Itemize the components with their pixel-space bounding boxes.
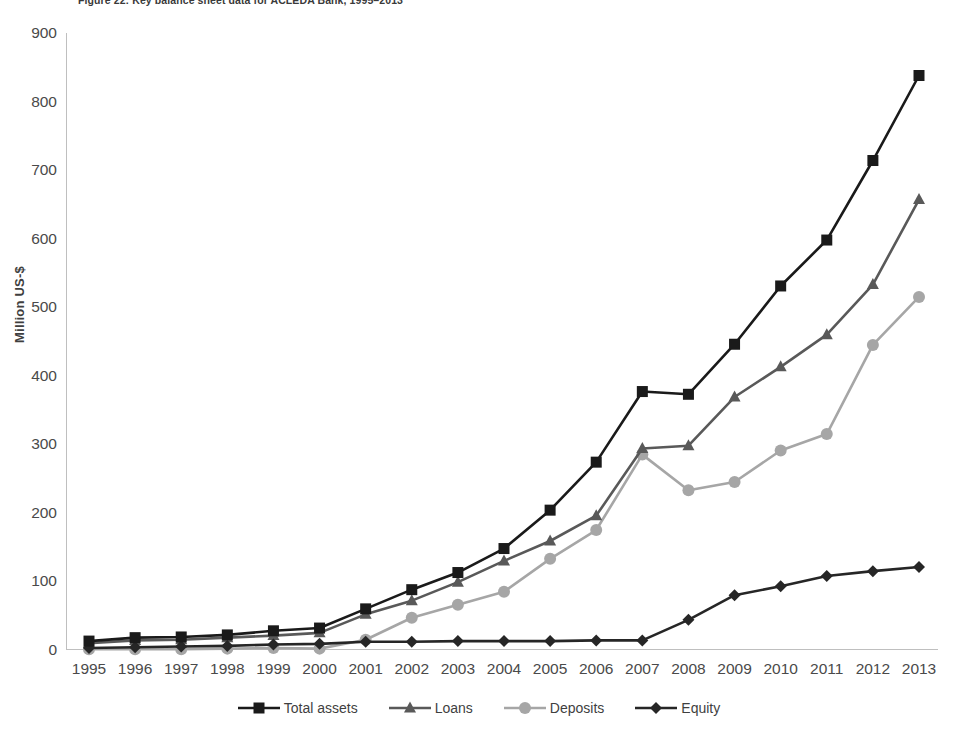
line-circle-marker [406,612,418,624]
line-square-marker [452,567,463,578]
line-circle-marker [821,428,833,440]
legend-item-label: Equity [681,700,720,716]
legend-item-label: Loans [435,700,473,716]
line-triangle-marker [775,360,787,371]
x-tick-label: 2007 [625,660,659,678]
y-tick-label: 300 [31,435,57,453]
line-circle-marker [913,291,925,303]
line-square-marker [268,625,279,636]
line-diamond-marker [636,634,648,646]
x-tick-label: 2005 [533,660,567,678]
series-deposits [83,291,925,655]
legend-item[interactable]: Deposits [503,700,604,716]
line-circle-marker [544,553,556,565]
line-triangle-marker [913,193,925,204]
line-diamond-marker [650,702,662,714]
line-square-marker [130,632,141,643]
line-square-marker [406,584,417,595]
legend-item-label: Deposits [550,700,604,716]
legend-item-label: Total assets [284,700,358,716]
line-circle-marker [867,339,879,351]
chart-series-canvas [66,33,938,650]
x-tick-label: 2008 [671,660,705,678]
line-circle-marker [519,702,531,714]
line-triangle-marker [729,391,741,402]
line-circle-marker [452,599,464,611]
x-tick-label: 1997 [164,660,198,678]
x-tick-label: 1995 [72,660,106,678]
legend-item[interactable]: Total assets [237,700,358,716]
line-diamond-marker [913,561,925,573]
line-circle-marker [729,476,741,488]
line-square-marker [591,457,602,468]
line-square-marker [360,603,371,614]
y-tick-label: 900 [31,24,57,42]
series-equity [83,561,925,654]
y-tick-label: 200 [31,504,57,522]
circle-marker [503,700,547,716]
line-square-marker [314,623,325,634]
line-diamond-marker [775,580,787,592]
chart-legend: Total assetsLoansDepositsEquity [0,700,957,716]
y-tick-label: 700 [31,161,57,179]
x-tick-label: 2003 [441,660,475,678]
x-tick-label: 2013 [902,660,936,678]
line-circle-marker [498,586,510,598]
x-tick-label: 2001 [348,660,382,678]
y-tick-label: 600 [31,230,57,248]
figure-caption: Figure 22: Key balance sheet data for AC… [78,0,678,8]
figure-root: Figure 22: Key balance sheet data for AC… [0,0,957,729]
series-loans [83,193,925,648]
x-tick-label: 2011 [810,660,843,678]
x-tick-label: 2012 [856,660,890,678]
line-square-marker [84,636,95,647]
line-circle-marker [682,484,694,496]
line-diamond-marker [452,635,464,647]
x-tick-label: 1996 [118,660,152,678]
y-tick-label: 0 [48,641,57,659]
x-tick-label: 1998 [210,660,244,678]
y-tick-label: 500 [31,298,57,316]
line-square-marker [775,280,786,291]
line-square-marker [914,70,925,81]
line-circle-marker [775,445,787,457]
x-tick-label: 2004 [487,660,521,678]
line-square-marker [545,505,556,516]
y-tick-label: 800 [31,93,57,111]
line-diamond-marker [867,565,879,577]
triangle-marker [388,700,432,716]
line-diamond-marker [821,570,833,582]
line-circle-marker [590,524,602,536]
line-square-marker [729,339,740,350]
x-tick-label: 2006 [579,660,613,678]
legend-item[interactable]: Loans [388,700,473,716]
series-line [89,200,919,644]
line-diamond-marker [406,636,418,648]
line-square-marker [637,386,648,397]
line-diamond-marker [729,589,741,601]
line-square-marker [253,703,264,714]
x-tick-label: 2010 [763,660,797,678]
line-triangle-marker [867,278,879,289]
line-square-marker [222,629,233,640]
plot-area: 9008007006005004003002001000199519961997… [66,33,938,650]
line-square-marker [821,235,832,246]
y-axis-title: Million US-$ [12,245,27,365]
line-diamond-marker [544,635,556,647]
line-square-marker [176,631,187,642]
x-tick-label: 1999 [256,660,290,678]
line-diamond-marker [682,614,694,626]
line-square-marker [499,543,510,554]
line-square-marker [683,389,694,400]
line-square-marker [867,155,878,166]
line-diamond-marker [590,634,602,646]
y-tick-label: 100 [31,572,57,590]
x-tick-label: 2000 [302,660,336,678]
legend-item[interactable]: Equity [634,700,720,716]
x-tick-label: 2002 [395,660,429,678]
diamond-marker [634,700,678,716]
square-marker [237,700,281,716]
x-tick-label: 2009 [717,660,751,678]
line-diamond-marker [498,635,510,647]
y-tick-label: 400 [31,367,57,385]
